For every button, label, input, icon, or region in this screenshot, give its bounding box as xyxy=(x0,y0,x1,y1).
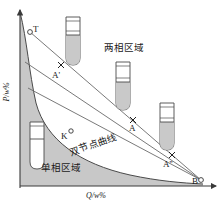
point-marker-K xyxy=(69,129,73,133)
test-tube-left xyxy=(30,122,44,169)
point-marker-B xyxy=(199,178,204,183)
test-tube-right xyxy=(160,103,174,150)
point-marker-A xyxy=(130,117,136,123)
test-tube-top xyxy=(66,17,80,65)
point-marker-A-double-prime xyxy=(169,152,175,158)
point-marker-T xyxy=(28,30,33,35)
single-phase-shaded-region xyxy=(20,12,203,186)
test-tube-middle xyxy=(116,62,130,110)
phase-diagram-figure: P/w% Q/w% T A' A A'' B K 两相区域 单相区域 双节点曲线 xyxy=(0,0,223,208)
point-marker-A-prime xyxy=(58,62,64,68)
phase-diagram-canvas xyxy=(0,0,223,208)
